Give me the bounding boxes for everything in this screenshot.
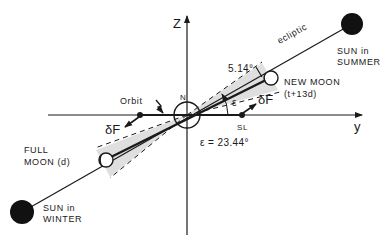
diagram-canvas xyxy=(0,0,392,235)
sl-label: SL xyxy=(237,124,248,132)
new-moon-icon xyxy=(264,71,278,85)
sun-summer-line1: SUN in xyxy=(337,47,381,56)
new-moon-line1: NEW MOON xyxy=(284,78,340,87)
new-moon-label: NEW MOON (t+13d) xyxy=(284,78,340,100)
full-moon-line1: FULL xyxy=(24,146,70,155)
sun-summer-label: SUN in SUMMER xyxy=(337,47,381,68)
sun-winter-line1: SUN in xyxy=(43,204,82,213)
epsilon-symbol: ε xyxy=(232,98,237,109)
delta-f-label-left: δF xyxy=(105,123,120,137)
delta-f-label-right: δF xyxy=(258,93,273,107)
delta-f-arrow-right xyxy=(243,104,256,113)
orbit-pointer-arrow xyxy=(156,100,163,113)
y-axis-label: y xyxy=(354,120,361,134)
obliquity-label: ε = 23.44° xyxy=(200,138,249,149)
delta-f-arrow-left xyxy=(125,117,139,127)
inclination-label: 5.14° xyxy=(228,64,253,75)
orbit-label: Orbit xyxy=(120,97,143,106)
sun-winter-line2: WINTER xyxy=(43,215,82,224)
sun-winter-icon xyxy=(10,200,34,224)
sun-summer-line2: SUMMER xyxy=(337,58,381,67)
z-axis-label: Z xyxy=(173,17,181,31)
full-moon-label: FULL MOON (d) xyxy=(24,146,70,168)
new-moon-line2: (t+13d) xyxy=(284,90,340,99)
full-moon-line2: MOON (d) xyxy=(24,158,70,167)
node-n-label: N xyxy=(180,94,186,102)
full-moon-icon xyxy=(99,153,113,167)
sun-winter-label: SUN in WINTER xyxy=(43,204,82,225)
sun-summer-icon xyxy=(341,13,363,35)
